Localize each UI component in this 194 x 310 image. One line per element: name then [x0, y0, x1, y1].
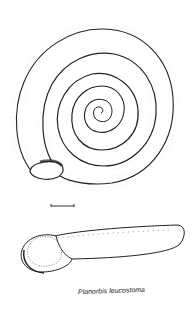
shell-apical-view	[16, 29, 173, 184]
scale-bar	[51, 204, 74, 207]
shell-side-view	[21, 225, 184, 273]
shell-illustration	[0, 0, 194, 310]
